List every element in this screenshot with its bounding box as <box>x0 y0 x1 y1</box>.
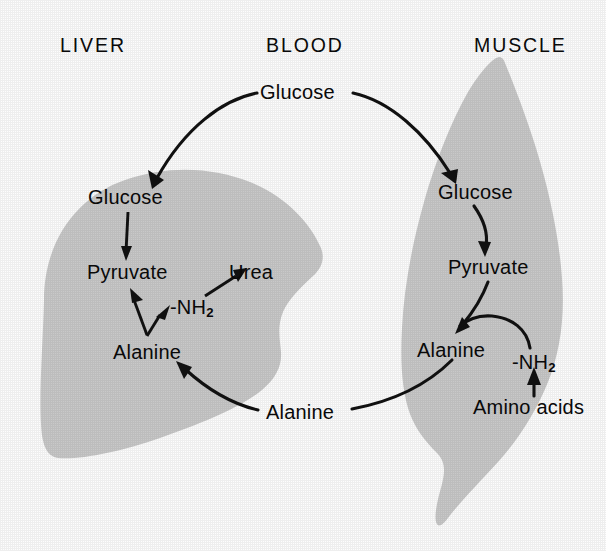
muscle-organ-shape <box>401 57 563 526</box>
arrow-blood-glucose-to-liver-glucose <box>157 93 257 178</box>
compartment-title-muscle: MUSCLE <box>474 36 567 56</box>
muscle-amino-group-text: -NH <box>512 351 548 373</box>
muscle-glucose-label: Glucose <box>438 182 513 202</box>
arrow-blood-glucose-to-muscle-glucose <box>353 93 450 173</box>
liver-amino-group-label: -NH2 <box>170 297 214 317</box>
muscle-amino-group-label: -NH2 <box>512 352 556 372</box>
muscle-amino-group-subscript: 2 <box>548 360 556 375</box>
blood-glucose-label: Glucose <box>260 82 335 102</box>
liver-pyruvate-label: Pyruvate <box>87 262 168 282</box>
liver-urea-label: Urea <box>229 262 273 282</box>
liver-alanine-label: Alanine <box>113 342 181 362</box>
muscle-pyruvate-label: Pyruvate <box>448 257 529 277</box>
liver-amino-group-subscript: 2 <box>206 305 214 320</box>
compartment-title-liver: LIVER <box>60 36 126 56</box>
liver-amino-group-text: -NH <box>170 296 206 318</box>
glucose-alanine-cycle-diagram: LIVER BLOOD MUSCLE Glucose Alanine Gluco… <box>0 0 606 551</box>
muscle-amino-acids-label: Amino acids <box>473 397 584 417</box>
muscle-alanine-label: Alanine <box>417 340 485 360</box>
liver-glucose-label: Glucose <box>88 187 163 207</box>
compartment-title-blood: BLOOD <box>266 36 344 56</box>
blood-alanine-label: Alanine <box>266 402 334 422</box>
